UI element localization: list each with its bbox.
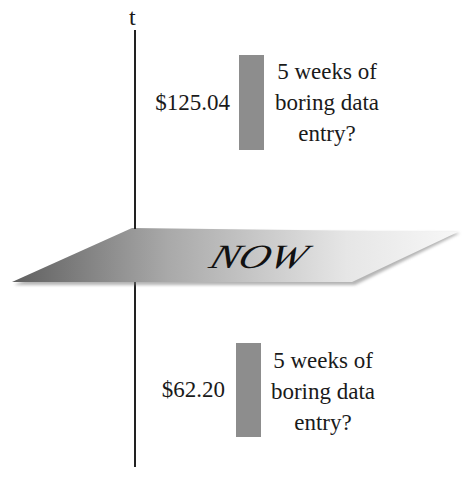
future-price: $125.04 [130, 90, 230, 116]
now-label: NOW [203, 238, 316, 276]
future-bar [239, 55, 264, 150]
note-line: entry? [258, 407, 388, 438]
future-note: 5 weeks of boring data entry? [262, 56, 392, 149]
note-line: 5 weeks of [262, 56, 392, 87]
past-price: $62.20 [125, 377, 225, 403]
note-line: entry? [262, 118, 392, 149]
past-note: 5 weeks of boring data entry? [258, 345, 388, 438]
note-line: boring data [262, 87, 392, 118]
time-axis-line-upper [134, 30, 136, 229]
note-line: boring data [258, 376, 388, 407]
note-line: 5 weeks of [258, 345, 388, 376]
